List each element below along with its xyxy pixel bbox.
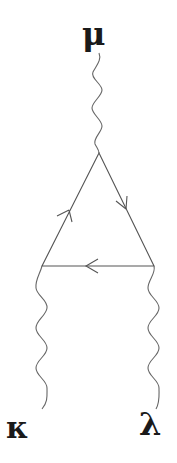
photon-line-kappa [36, 266, 47, 409]
label-kappa: κ [6, 413, 29, 443]
fermion-loop-triangle [42, 153, 154, 266]
label-mu: μ [82, 18, 105, 50]
label-lambda: λ [139, 408, 161, 440]
feynman-diagram [0, 0, 177, 463]
photon-line-mu [92, 53, 102, 153]
photon-line-lambda [148, 266, 159, 409]
